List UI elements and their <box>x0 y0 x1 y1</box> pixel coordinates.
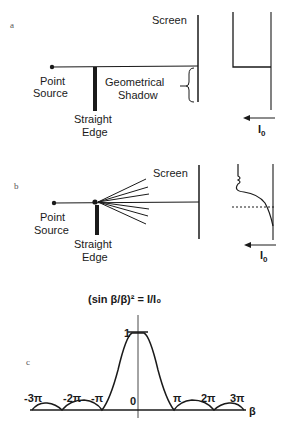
intensity-label: I0 <box>260 249 268 264</box>
x-tick-label: -3π <box>24 392 43 404</box>
diffraction-diagram: a Screen Point Source Straight Edge Geom… <box>0 0 289 430</box>
panel-c-letter: c <box>26 357 30 367</box>
shadow-label: Shadow <box>118 89 158 101</box>
shadow-brace <box>186 68 194 102</box>
arrow-left-icon <box>243 115 250 121</box>
panel-a: a Screen Point Source Straight Edge Geom… <box>10 12 275 138</box>
intensity-label: I0 <box>258 123 266 138</box>
x-tick-label: -π <box>91 392 104 404</box>
edge-tip <box>92 199 97 204</box>
straight-label: Straight <box>74 113 112 125</box>
origin-label: 0 <box>130 395 136 407</box>
panel-b-letter: b <box>14 181 19 191</box>
diffraction-intensity-profile <box>236 164 273 226</box>
source-label: Source <box>33 87 68 99</box>
screen-label: Screen <box>153 167 188 179</box>
edge-label: Edge <box>82 126 108 138</box>
x-tick-label: 2π <box>201 392 216 404</box>
geometrical-label: Geometrical <box>105 76 164 88</box>
screen-label: Screen <box>152 14 187 26</box>
intensity-step-profile <box>233 12 271 67</box>
light-ray <box>54 202 199 203</box>
x-tick-label: -2π <box>63 392 82 404</box>
straight-edge <box>95 205 99 235</box>
straight-label: Straight <box>74 238 112 250</box>
panel-c: (sin β/β)² = I/I₀ c 1 -3π -2π -π 0 π 2π … <box>24 293 256 418</box>
source-label: Source <box>34 224 69 236</box>
edge-label: Edge <box>82 251 108 263</box>
x-axis-label: β <box>249 405 256 417</box>
panel-a-letter: a <box>10 20 14 30</box>
arrow-left-icon <box>244 242 251 248</box>
panel-b: b Screen Point Source Straight Edge I0 <box>14 164 276 264</box>
x-tick-label: 3π <box>230 392 245 404</box>
diffracted-rays <box>98 179 149 224</box>
point-label: Point <box>40 211 65 223</box>
light-ray <box>52 66 198 67</box>
x-tick-label: π <box>173 392 182 404</box>
point-label: Point <box>40 75 65 87</box>
chart-title: (sin β/β)² = I/I₀ <box>88 293 161 305</box>
straight-edge <box>93 67 97 111</box>
